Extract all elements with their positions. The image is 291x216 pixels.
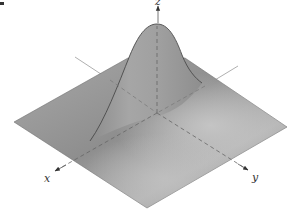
corner-mark	[0, 2, 4, 5]
y-axis-arrow-icon	[238, 164, 248, 170]
y-axis-label: y	[251, 171, 259, 184]
gaussian-surface-figure: x y z	[0, 0, 291, 216]
x-axis-label: x	[44, 172, 51, 185]
z-axis-label: z	[154, 0, 161, 8]
x-axis-arrow-icon	[55, 165, 66, 171]
surface-plot: x y z	[0, 0, 291, 216]
